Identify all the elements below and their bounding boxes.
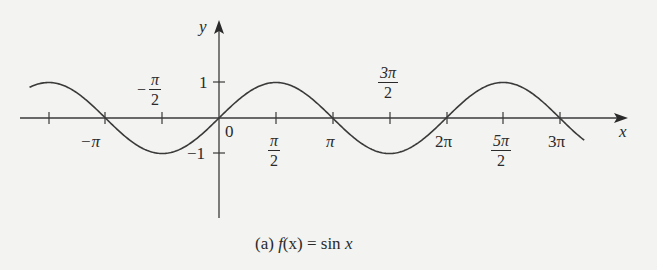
fraction: π 2 (149, 72, 161, 108)
x-axis-label: x (619, 123, 627, 140)
y-tick-label-1: 1 (199, 74, 208, 91)
minus-sign: − (137, 81, 146, 99)
y-tick-label-neg1: −1 (187, 145, 205, 162)
x-tick-label-three-pi: 3π (548, 133, 565, 150)
caption-prefix: (a) (255, 234, 274, 253)
origin-label: 0 (225, 123, 234, 140)
x-tick-label-neg-pi-half: − π 2 (137, 72, 161, 108)
caption-argument: (x) (283, 234, 303, 253)
x-tick-label-two-pi: 2π (435, 133, 452, 150)
caption-equation: = sin (303, 234, 345, 253)
x-tick-label-three-pi-half: 3π 2 (378, 65, 398, 101)
x-tick-label-neg-pi: −π (80, 133, 100, 150)
x-tick-label-pi-half: π 2 (268, 133, 280, 169)
caption-variable: x (345, 234, 353, 253)
figure-page: y x 0 1 −1 − π 2 −π π 2 π 3π 2 2π 5π 2 3… (0, 0, 657, 270)
x-tick-label-pi: π (326, 133, 335, 150)
figure-caption: (a) f(x) = sin x (255, 234, 352, 254)
y-axis-label: y (199, 18, 207, 35)
x-tick-label-five-pi-half: 5π 2 (491, 133, 511, 169)
